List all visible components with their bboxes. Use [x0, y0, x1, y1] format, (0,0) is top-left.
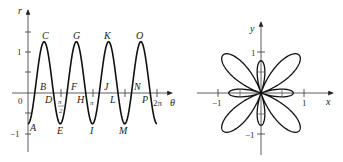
- point-N: N: [133, 81, 142, 92]
- point-B: B: [40, 81, 46, 92]
- point-I: I: [89, 125, 94, 136]
- point-E: E: [56, 125, 63, 136]
- y-axis-label: y: [249, 23, 255, 34]
- point-H: H: [76, 94, 85, 105]
- origin-label: 0: [18, 96, 23, 106]
- pi-label: π: [90, 99, 94, 107]
- x-axis-label: x: [325, 96, 331, 107]
- point-P: P: [141, 94, 148, 105]
- point-D: D: [44, 94, 53, 105]
- y-tick-label-neg-1: −1: [245, 130, 255, 140]
- point-G: G: [73, 30, 80, 41]
- pi-over-2-label: π 2: [58, 98, 64, 115]
- x-tick-label-neg-1: −1: [212, 98, 222, 108]
- point-C: C: [42, 30, 49, 41]
- two-pi-label: 2π: [153, 98, 163, 108]
- r-tick-label-1: 1: [17, 47, 22, 57]
- point-O: O: [136, 30, 143, 41]
- svg-text:2: 2: [59, 107, 63, 115]
- left-graph: r θ 0 1 −1 π 2 π 2π A B C D E F G H I J …: [10, 5, 175, 152]
- right-graph: y x −1 1 1 −1: [197, 22, 333, 155]
- point-K: K: [103, 30, 112, 41]
- y-tick-label-1: 1: [251, 48, 256, 58]
- x-tick-label-1: 1: [302, 98, 307, 108]
- svg-text:π: π: [58, 98, 62, 106]
- point-F: F: [70, 81, 78, 92]
- point-A: A: [29, 122, 37, 133]
- point-J: J: [104, 81, 109, 92]
- theta-axis-label: θ: [170, 97, 175, 108]
- point-M: M: [118, 125, 128, 136]
- r-axis-label: r: [18, 5, 22, 16]
- point-L: L: [109, 94, 116, 105]
- diagram-canvas: r θ 0 1 −1 π 2 π 2π A B C D E F G H I J …: [0, 0, 343, 162]
- r-tick-label-neg-1: −1: [10, 129, 20, 139]
